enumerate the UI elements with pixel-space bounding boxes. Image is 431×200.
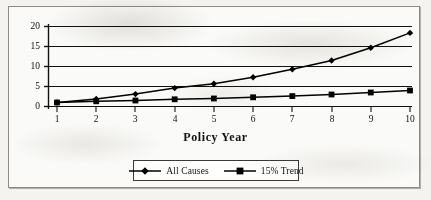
data-point [171, 85, 177, 91]
chart-legend: All Causes 15% Trend [133, 160, 299, 181]
legend-entry-15-trend: 15% Trend [223, 166, 304, 176]
x-tick-label-2: 2 [88, 114, 104, 124]
x-tick-label-3: 3 [127, 114, 143, 124]
x-tick-label-5: 5 [206, 114, 222, 124]
y-tick-label-15: 15 [22, 41, 40, 51]
gridlines [48, 27, 412, 107]
data-point [132, 91, 138, 97]
x-tick-label-1: 1 [49, 114, 65, 124]
y-tick-label-5: 5 [22, 81, 40, 91]
x-tick-label-7: 7 [284, 114, 300, 124]
y-tick-label-10: 10 [22, 61, 40, 71]
diamond-marker-icon [128, 166, 162, 176]
legend-label-all-causes: All Causes [166, 166, 208, 176]
data-point [289, 93, 295, 99]
data-point [407, 30, 413, 36]
legend-label-15-trend: 15% Trend [261, 166, 304, 176]
x-tick-label-9: 9 [363, 114, 379, 124]
x-axis-ticks [57, 107, 410, 113]
data-point [250, 74, 256, 80]
series-markers-15-trend [54, 88, 413, 106]
data-point [54, 100, 60, 106]
data-point [250, 94, 256, 100]
y-tick-label-20: 20 [22, 21, 40, 31]
data-point [133, 98, 139, 104]
x-tick-label-6: 6 [245, 114, 261, 124]
series-group [54, 30, 413, 106]
x-tick-label-8: 8 [324, 114, 340, 124]
data-point [289, 66, 295, 72]
data-point [368, 90, 374, 96]
data-point [172, 96, 178, 102]
x-tick-label-4: 4 [167, 114, 183, 124]
y-tick-label-0: 0 [22, 101, 40, 111]
square-marker-icon [223, 166, 257, 176]
data-point [211, 81, 217, 87]
data-point [211, 96, 217, 102]
series-markers-all-causes [54, 30, 413, 106]
data-point [328, 57, 334, 63]
series-line-all-causes [57, 33, 410, 103]
legend-entry-all-causes: All Causes [128, 166, 208, 176]
data-point [368, 45, 374, 51]
x-tick-label-10: 10 [402, 114, 418, 124]
x-axis-title: Policy Year [0, 130, 431, 145]
chart-page: 20 15 10 5 0 1 2 3 4 5 6 7 8 9 10 Policy… [0, 0, 431, 200]
data-point [407, 88, 413, 94]
data-point [93, 98, 99, 104]
y-axis [44, 24, 49, 109]
data-point [329, 92, 335, 98]
